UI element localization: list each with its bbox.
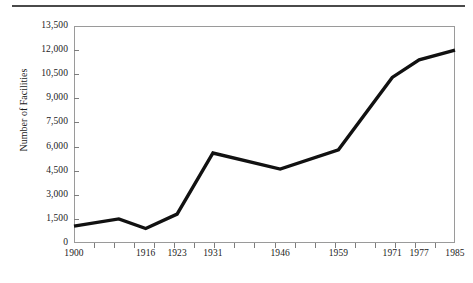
x-axis-tick-mark [355,243,356,248]
y-axis-tick-mark [74,74,79,75]
x-axis-tick-mark [114,243,115,248]
x-axis-tick-mark [375,243,376,248]
y-axis-tick-label: 6,000 [46,142,68,152]
x-axis-tick-labels: 190019161923193119461959197119771985 [0,248,473,266]
y-axis-tick-label: 12,000 [41,45,68,55]
x-axis-tick-mark [154,243,155,248]
x-axis-tick-label: 1971 [383,248,402,259]
y-axis-tick-mark [74,98,79,99]
x-axis-tick-mark [275,243,276,248]
x-axis-tick-label: 1931 [203,248,222,259]
x-axis-tick-mark [234,243,235,248]
y-axis-tick-label: 4,500 [46,166,68,176]
x-axis-tick-label: 1959 [329,248,348,259]
y-axis-tick-mark [74,50,79,51]
x-axis-tick-mark [94,243,95,248]
x-axis-tick-mark [315,243,316,248]
x-axis-tick-label: 1923 [167,248,186,259]
x-axis-tick-label: 1946 [270,248,289,259]
x-axis-tick-mark [335,243,336,248]
x-axis-tick-mark [194,243,195,248]
y-axis-tick-label: 7,500 [46,117,68,127]
x-axis-tick-mark [214,243,215,248]
x-axis-tick-label: 1985 [445,248,464,259]
top-horizontal-rule [12,5,465,7]
y-axis-tick-label: 9,000 [46,93,68,103]
y-axis-tick-mark [74,195,79,196]
y-axis-tick-label: 0 [63,238,68,248]
figure-container: Number of Facilities 01,5003,0004,5006,0… [0,0,473,283]
y-axis-tick-label: 10,500 [41,69,68,79]
x-axis-tick-label: 1900 [64,248,83,259]
x-axis-tick-mark [435,243,436,248]
y-axis-tick-mark [74,219,79,220]
y-axis-tick-label: 1,500 [46,214,68,224]
x-axis-tick-mark [174,243,175,248]
x-axis-tick-mark [254,243,255,248]
x-axis-tick-label: 1916 [136,248,155,259]
x-axis-tick-mark [295,243,296,248]
y-axis-tick-mark [74,171,79,172]
x-axis-tick-label: 1977 [409,248,428,259]
x-axis-tick-mark [134,243,135,248]
y-axis-tick-label: 3,000 [46,190,68,200]
y-axis-tick-mark [74,147,79,148]
x-axis-tick-mark [395,243,396,248]
y-axis-tick-mark [74,122,79,123]
data-series-line [74,26,455,243]
x-axis-tick-mark [415,243,416,248]
y-axis-tick-label: 13,500 [41,21,68,31]
y-axis-tick-labels: 01,5003,0004,5006,0007,5009,00010,50012,… [0,0,68,283]
